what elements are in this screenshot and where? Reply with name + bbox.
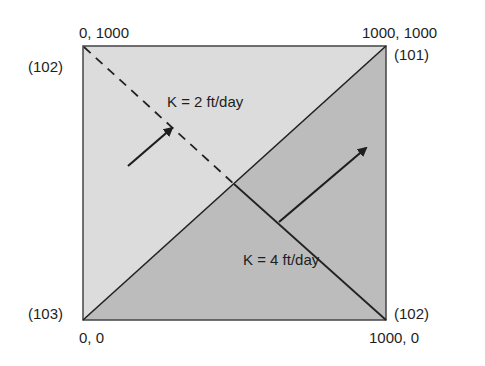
- label-k4: K = 4 ft/day: [243, 251, 320, 268]
- node-top-left: (102): [28, 58, 63, 75]
- label-k2: K = 2 ft/day: [167, 93, 244, 110]
- coord-top-left: 0, 1000: [79, 24, 129, 41]
- node-bottom-left: (103): [28, 305, 63, 322]
- coord-bottom-left: 0, 0: [79, 329, 104, 346]
- coord-top-right: 1000, 1000: [362, 24, 437, 41]
- flow-domain-diagram: K = 2 ft/day K = 4 ft/day 0, 1000 1000, …: [0, 0, 485, 366]
- node-top-right: (101): [394, 46, 429, 63]
- coord-bottom-right: 1000, 0: [369, 329, 419, 346]
- node-bottom-right: (102): [394, 305, 429, 322]
